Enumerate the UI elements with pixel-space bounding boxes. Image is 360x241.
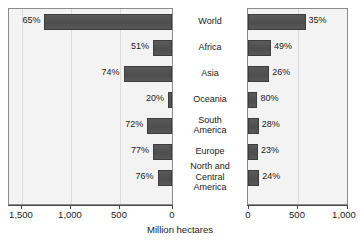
category-label-asia: Asia: [201, 68, 219, 79]
category-label-africa: Africa: [198, 42, 221, 53]
value-label-left-world: 65%: [10, 14, 40, 27]
x-axis-left: [8, 205, 173, 206]
value-label-right-north-central-america: 24%: [262, 170, 292, 183]
bar-right-world: [248, 14, 306, 30]
bar-right-africa: [248, 40, 271, 56]
tick-label-right-0: 0: [236, 209, 260, 221]
bar-left-africa: [153, 40, 172, 56]
bar-right-south-america: [248, 118, 259, 134]
value-label-left-europe: 77%: [119, 144, 149, 157]
category-label-europe: Europe: [195, 146, 224, 157]
table-row: [9, 113, 172, 139]
bar-left-asia: [124, 66, 172, 82]
bar-right-north-central-america: [248, 170, 259, 186]
bar-right-asia: [248, 66, 269, 82]
value-label-left-south-america: 72%: [113, 118, 143, 131]
tick-label-left-1500: 1,500: [1, 209, 41, 221]
category-row: South America: [173, 112, 247, 138]
value-label-left-north-central-america: 76%: [124, 170, 154, 183]
category-label-oceania: Oceania: [193, 94, 227, 105]
tick-label-left-500: 500: [103, 209, 135, 221]
category-row: Europe: [173, 138, 247, 164]
x-axis-title: Million hectares: [0, 224, 360, 236]
tick-label-left-0: 0: [160, 209, 184, 221]
value-label-right-oceania: 80%: [260, 92, 290, 105]
tick-label-right-1000: 1,000: [328, 209, 360, 221]
bar-left-north-central-america: [158, 170, 172, 186]
tick-label-left-1000: 1,000: [50, 209, 90, 221]
category-label-north-central-america: North and Central America: [190, 161, 230, 193]
bar-right-europe: [248, 144, 258, 160]
bar-left-south-america: [147, 118, 172, 134]
value-label-left-africa: 51%: [119, 40, 149, 53]
bar-left-europe: [153, 144, 172, 160]
category-row: Oceania: [173, 86, 247, 112]
value-label-right-world: 35%: [309, 14, 339, 27]
bar-left-oceania: [168, 92, 172, 108]
category-label-south-america: South America: [193, 115, 226, 136]
gridline-right-1000: [347, 9, 348, 204]
value-label-left-asia: 74%: [90, 66, 120, 79]
bar-left-world: [44, 14, 172, 30]
bar-right-oceania: [248, 92, 257, 108]
butterfly-bar-chart: 65% 51% 74% 20% 72% 77% 76% World Africa…: [0, 0, 360, 241]
category-row: Asia: [173, 60, 247, 86]
category-label-world: World: [198, 16, 221, 27]
value-label-right-europe: 23%: [261, 144, 291, 157]
tick-label-right-500: 500: [281, 209, 313, 221]
value-label-right-asia: 26%: [272, 66, 302, 79]
category-row: Africa: [173, 34, 247, 60]
category-label-column: World Africa Asia Oceania South America …: [173, 8, 247, 205]
category-row: World: [173, 8, 247, 34]
value-label-right-south-america: 28%: [262, 118, 292, 131]
value-label-right-africa: 49%: [274, 40, 304, 53]
value-label-left-oceania: 20%: [134, 92, 164, 105]
category-row: North and Central America: [173, 164, 247, 190]
